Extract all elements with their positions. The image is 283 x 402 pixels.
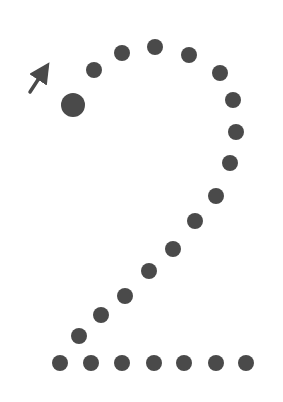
trace-dot — [86, 62, 102, 78]
trace-dot — [147, 39, 163, 55]
tracing-worksheet — [0, 0, 283, 402]
trace-dot — [83, 355, 99, 371]
trace-dot — [187, 213, 203, 229]
trace-dot — [222, 155, 238, 171]
trace-dot — [52, 355, 68, 371]
trace-dot — [117, 288, 133, 304]
direction-arrow-icon — [30, 71, 44, 92]
trace-dot — [93, 307, 109, 323]
trace-dot — [228, 124, 244, 140]
trace-dots — [52, 39, 254, 371]
dotted-digit-two — [0, 0, 283, 402]
trace-dot — [114, 45, 130, 61]
trace-dot — [225, 92, 241, 108]
start-dot — [61, 93, 85, 117]
trace-dot — [114, 355, 130, 371]
trace-dot — [208, 188, 224, 204]
trace-dot — [71, 328, 87, 344]
trace-dot — [165, 241, 181, 257]
trace-dot — [176, 355, 192, 371]
trace-dot — [146, 355, 162, 371]
trace-dot — [141, 263, 157, 279]
trace-dot — [238, 355, 254, 371]
trace-dot — [212, 65, 228, 81]
trace-dot — [208, 355, 224, 371]
trace-dot — [181, 47, 197, 63]
